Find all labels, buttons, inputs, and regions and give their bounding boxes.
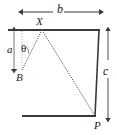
diagram-canvas <box>0 0 117 135</box>
label-point-b: B <box>16 72 23 83</box>
label-point-p: P <box>94 120 101 131</box>
ray-x-to-p <box>42 30 95 116</box>
label-height-a: a <box>7 44 13 55</box>
label-point-x: X <box>36 16 43 27</box>
angle-theta-arc <box>27 47 29 54</box>
geometry-diagram: b X a θ B c P <box>0 0 117 135</box>
label-width-b: b <box>57 3 63 15</box>
label-angle-theta: θ <box>21 43 26 54</box>
right-wall-line <box>95 30 99 116</box>
label-height-c: c <box>103 65 108 77</box>
